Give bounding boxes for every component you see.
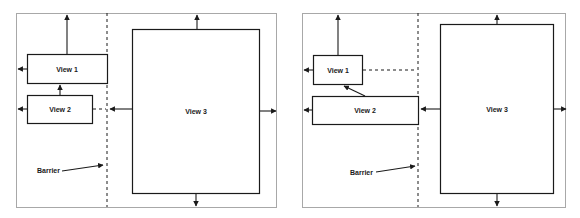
- left-barrier-pointer-arrow: [62, 165, 103, 171]
- right-view-2: View 2: [313, 97, 419, 125]
- right-view-2-label: View 2: [354, 107, 376, 114]
- right-diagram: View 1 View 2 View 3 Barrier: [303, 13, 567, 208]
- left-view-2: View 2: [28, 96, 93, 124]
- right-barrier-label: Barrier: [350, 169, 373, 176]
- left-view-2-label: View 2: [49, 106, 71, 113]
- left-view-3: View 3: [133, 30, 260, 194]
- left-diagram: View 1 View 2 View 3 Barrier: [17, 13, 277, 208]
- right-view-3: View 3: [441, 25, 554, 194]
- left-view-1-label: View 1: [56, 66, 78, 73]
- right-barrier-pointer-arrow: [376, 166, 415, 172]
- right-view-2-to-view-1-arrow: [344, 86, 365, 96]
- right-view-1: View 1: [314, 56, 363, 85]
- left-barrier-label: Barrier: [37, 167, 60, 174]
- left-view-1: View 1: [28, 55, 108, 84]
- diagram-canvas: View 1 View 2 View 3 Barrier: [0, 0, 580, 218]
- right-view-1-label: View 1: [327, 67, 349, 74]
- right-view-3-label: View 3: [486, 106, 508, 113]
- left-view-3-label: View 3: [185, 108, 207, 115]
